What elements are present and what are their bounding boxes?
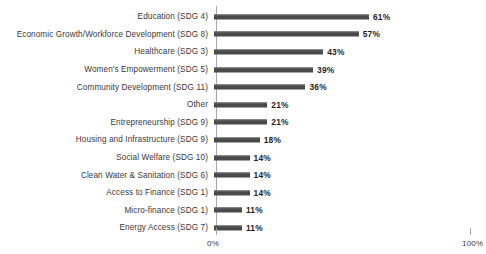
category-label: Entrepreneurship (SDG 9) — [0, 118, 212, 127]
bar-zone: 11% — [212, 202, 486, 220]
category-label: Housing and Infrastructure (SDG 9) — [0, 135, 212, 144]
bar-zone: 61% — [212, 8, 486, 26]
table-row: Other 21% — [0, 96, 486, 114]
table-row: Energy Access (SDG 7) 11% — [0, 219, 486, 237]
bar-zone: 14% — [212, 149, 486, 167]
bar-value-label: 57% — [363, 29, 380, 39]
table-row: Healthcare (SDG 3) 43% — [0, 43, 486, 61]
table-row: Entrepreneurship (SDG 9) 21% — [0, 114, 486, 132]
bar — [214, 155, 250, 160]
category-label: Community Development (SDG 11) — [0, 83, 212, 92]
bar-zone: 18% — [212, 131, 486, 149]
bar — [214, 49, 323, 54]
table-row: Economic Growth/Workforce Development (S… — [0, 26, 486, 44]
bar-value-label: 11% — [246, 205, 263, 215]
table-row: Micro-finance (SDG 1) 11% — [0, 202, 486, 220]
table-row: Education (SDG 4) 61% — [0, 8, 486, 26]
category-label: Access to Finance (SDG 1) — [0, 188, 212, 197]
axis-tick-max-mark — [470, 228, 471, 235]
category-label: Clean Water & Sanitation (SDG 6) — [0, 171, 212, 180]
bar-zone: 57% — [212, 26, 486, 44]
bar — [214, 137, 260, 142]
axis-tick-min-mark — [216, 228, 217, 235]
bar-zone: 21% — [212, 96, 486, 114]
bar-value-label: 21% — [271, 100, 288, 110]
bar — [214, 67, 313, 72]
bar-value-label: 18% — [264, 135, 281, 145]
bar — [214, 173, 250, 178]
bar-zone: 36% — [212, 78, 486, 96]
category-label: Healthcare (SDG 3) — [0, 47, 212, 56]
table-row: Community Development (SDG 11) 36% — [0, 78, 486, 96]
bar-value-label: 14% — [254, 153, 271, 163]
bar-value-label: 36% — [309, 82, 326, 92]
bar-zone: 21% — [212, 114, 486, 132]
bar-zone: 11% — [212, 219, 486, 237]
bar-value-label: 11% — [246, 223, 263, 233]
category-label: Women's Empowerment (SDG 5) — [0, 65, 212, 74]
bar-rows: Education (SDG 4) 61% Economic Growth/Wo… — [0, 8, 486, 237]
bar-value-label: 43% — [327, 47, 344, 57]
bar-value-label: 61% — [373, 12, 390, 22]
bar-zone: 14% — [212, 184, 486, 202]
bar — [214, 14, 369, 19]
category-label: Energy Access (SDG 7) — [0, 223, 212, 232]
bar-zone: 39% — [212, 61, 486, 79]
category-label: Social Welfare (SDG 10) — [0, 153, 212, 162]
table-row: Access to Finance (SDG 1) 14% — [0, 184, 486, 202]
bar — [214, 85, 305, 90]
bar-chart: Education (SDG 4) 61% Economic Growth/Wo… — [0, 0, 486, 254]
bar-value-label: 39% — [317, 65, 334, 75]
bar-value-label: 21% — [271, 117, 288, 127]
axis-tick-label-max: 100% — [462, 239, 483, 248]
bar — [214, 32, 359, 37]
category-label: Economic Growth/Workforce Development (S… — [0, 30, 212, 39]
table-row: Housing and Infrastructure (SDG 9) 18% — [0, 131, 486, 149]
table-row: Women's Empowerment (SDG 5) 39% — [0, 61, 486, 79]
bar-zone: 43% — [212, 43, 486, 61]
bar — [214, 225, 242, 230]
axis-tick-label-min: 0% — [207, 239, 219, 248]
bar-zone: 14% — [212, 166, 486, 184]
category-label: Micro-finance (SDG 1) — [0, 206, 212, 215]
table-row: Social Welfare (SDG 10) 14% — [0, 149, 486, 167]
bar — [214, 208, 242, 213]
bar — [214, 120, 267, 125]
bar-value-label: 14% — [254, 170, 271, 180]
category-label: Other — [0, 100, 212, 109]
bar — [214, 190, 250, 195]
table-row: Clean Water & Sanitation (SDG 6) 14% — [0, 166, 486, 184]
bar-value-label: 14% — [254, 188, 271, 198]
category-label: Education (SDG 4) — [0, 12, 212, 21]
bar — [214, 102, 267, 107]
